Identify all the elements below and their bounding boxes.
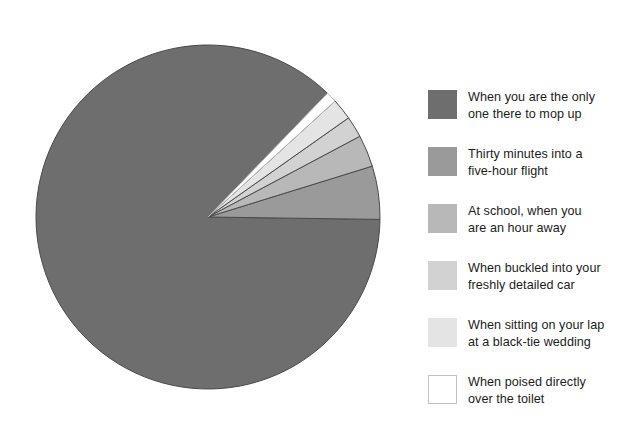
pie-chart xyxy=(0,0,420,434)
legend-swatch-icon xyxy=(428,204,457,233)
chart-figure: When you are the only one there to mop u… xyxy=(0,0,629,434)
legend-item-label: When you are the only one there to mop u… xyxy=(468,88,595,123)
chart-legend: When you are the only one there to mop u… xyxy=(428,88,624,408)
legend-swatch-icon xyxy=(428,147,457,176)
legend-item[interactable]: When you are the only one there to mop u… xyxy=(428,88,624,123)
legend-swatch-icon xyxy=(428,375,457,404)
legend-item[interactable]: At school, when you are an hour away xyxy=(428,202,624,237)
legend-item[interactable]: When poised directly over the toilet xyxy=(428,373,624,408)
pie-slice-group xyxy=(36,45,380,389)
legend-item-label: When sitting on your lap at a black-tie … xyxy=(468,316,604,351)
legend-swatch-icon xyxy=(428,90,457,119)
pie-chart-svg xyxy=(0,0,420,434)
legend-item[interactable]: When sitting on your lap at a black-tie … xyxy=(428,316,624,351)
legend-item[interactable]: When buckled into your freshly detailed … xyxy=(428,259,624,294)
legend-item-label: Thirty minutes into a five-hour flight xyxy=(468,145,582,180)
legend-item-label: When buckled into your freshly detailed … xyxy=(468,259,601,294)
legend-item-label: At school, when you are an hour away xyxy=(468,202,582,237)
legend-swatch-icon xyxy=(428,318,457,347)
legend-swatch-icon xyxy=(428,261,457,290)
legend-item-label: When poised directly over the toilet xyxy=(468,373,586,408)
legend-item[interactable]: Thirty minutes into a five-hour flight xyxy=(428,145,624,180)
